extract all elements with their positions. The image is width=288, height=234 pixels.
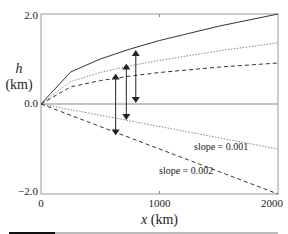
y-axis-var: h bbox=[16, 61, 23, 76]
y-axis-unit: (km) bbox=[5, 77, 33, 93]
y-tick-top: 2.0 bbox=[24, 9, 38, 21]
series-line-1 bbox=[41, 43, 278, 104]
x-axis-label: x (km) bbox=[140, 212, 178, 228]
x-tick-1000: 1000 bbox=[149, 197, 172, 209]
y-tick-zero: 0.0 bbox=[24, 97, 38, 109]
x-tick-2000: 2000 bbox=[261, 197, 284, 209]
x-tick-0: 0 bbox=[38, 197, 44, 209]
arrows-group bbox=[116, 53, 136, 132]
y-tick-bottom: −2.0 bbox=[18, 185, 38, 197]
chart: 2.0 0.0 −2.0 0 1000 2000 h (km) x (km) s… bbox=[0, 0, 288, 234]
annotation-slope-001: slope = 0.001 bbox=[194, 141, 248, 152]
annotation-slope-002: slope = 0.002 bbox=[159, 165, 213, 176]
series-line-0 bbox=[41, 14, 278, 104]
